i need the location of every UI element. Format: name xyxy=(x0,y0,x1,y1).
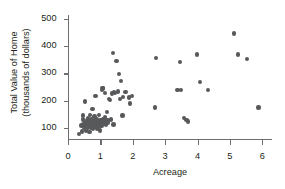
scatter-point xyxy=(236,52,240,56)
scatter-point xyxy=(154,56,158,60)
scatter-point xyxy=(109,117,113,121)
scatter-point xyxy=(130,94,134,98)
x-axis-tick-label: 0 xyxy=(65,151,70,161)
x-axis-tick: 0 xyxy=(68,140,69,145)
scatter-point xyxy=(153,105,157,109)
scatter-point xyxy=(195,52,199,56)
y-axis-title-line2: (thousands of dollars) xyxy=(20,28,32,116)
scatter-point xyxy=(90,107,94,111)
scatter-point xyxy=(120,113,124,117)
scatter-point xyxy=(103,91,107,95)
scatter-point xyxy=(93,94,97,98)
x-axis-tick-label: 3 xyxy=(163,151,168,161)
scatter-point xyxy=(123,90,127,94)
y-axis-tick: 100 xyxy=(64,128,69,129)
y-axis-tick-label: 500 xyxy=(41,13,56,23)
scatter-point xyxy=(119,79,123,83)
y-axis-tick-label: 300 xyxy=(41,67,56,77)
scatter-point xyxy=(186,119,190,123)
y-axis-tick-label: 100 xyxy=(41,122,56,132)
scatter-point xyxy=(179,88,183,92)
scatter-point xyxy=(116,89,120,93)
y-axis-title: Total Value of Home (thousands of dollar… xyxy=(0,0,40,145)
x-axis-tick-label: 4 xyxy=(195,151,200,161)
x-axis-tick: 1 xyxy=(100,140,101,145)
plot-area: 1002003004005000123456 xyxy=(68,15,272,140)
scatter-point xyxy=(198,80,202,84)
x-axis-tick-label: 5 xyxy=(227,151,232,161)
scatter-point xyxy=(117,72,121,76)
x-axis-tick-label: 2 xyxy=(130,151,135,161)
scatter-point xyxy=(128,101,132,105)
y-axis-tick: 500 xyxy=(64,19,69,20)
scatter-point xyxy=(98,128,102,132)
x-axis-tick: 5 xyxy=(230,140,231,145)
x-axis-tick-label: 6 xyxy=(260,151,265,161)
scatter-point xyxy=(206,88,210,92)
x-axis-title: Acreage xyxy=(68,167,272,177)
scatter-point xyxy=(121,95,125,99)
scatter-point xyxy=(111,51,115,55)
scatter-point xyxy=(114,59,118,63)
x-axis-tick: 3 xyxy=(165,140,166,145)
scatter-plot-figure: Total Value of Home (thousands of dollar… xyxy=(0,0,285,189)
y-axis-tick: 300 xyxy=(64,73,69,74)
y-axis-tick: 200 xyxy=(64,101,69,102)
x-axis-tick: 4 xyxy=(198,140,199,145)
scatter-point xyxy=(83,99,87,103)
scatter-point xyxy=(245,57,249,61)
x-axis-tick-label: 1 xyxy=(98,151,103,161)
scatter-point xyxy=(105,110,109,114)
x-axis-tick: 6 xyxy=(262,140,263,145)
scatter-point xyxy=(232,31,236,35)
scatter-point xyxy=(256,105,260,109)
y-axis-title-line1: Total Value of Home xyxy=(9,28,21,116)
x-axis-tick: 2 xyxy=(133,140,134,145)
scatter-point xyxy=(178,60,182,64)
scatter-point xyxy=(111,122,115,126)
y-axis-tick: 400 xyxy=(64,46,69,47)
scatter-point xyxy=(108,98,112,102)
y-axis-tick-label: 400 xyxy=(41,40,56,50)
y-axis-tick-label: 200 xyxy=(41,95,56,105)
